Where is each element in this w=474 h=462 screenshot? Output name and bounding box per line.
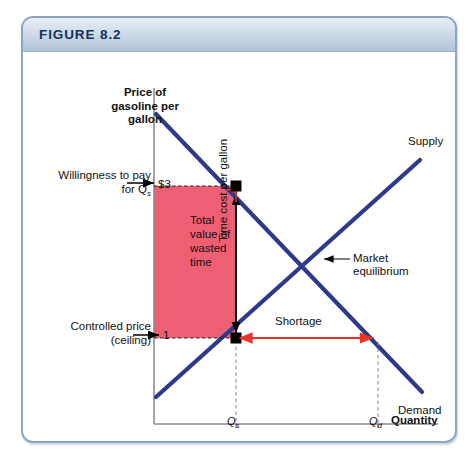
x-tick-label-qd: Qd — [369, 415, 382, 433]
plot-area: Price of gasoline per gallon Quantity Su… — [23, 52, 455, 443]
price-tick-1-label: 1 — [163, 329, 169, 343]
figure-frame: FIGURE 8.2 — [21, 16, 457, 443]
willingness-to-pay-text: Willingness to pay for Q — [58, 169, 151, 195]
controlled-price-point-marker — [231, 333, 242, 344]
economics-supply-demand-chart — [23, 52, 455, 443]
qd-text: Q — [369, 415, 378, 427]
total-value-wasted-time-label: Total value of wasted time — [190, 213, 238, 269]
willingness-to-pay-subscript: s — [147, 189, 151, 198]
market-equilibrium-label: Market equilibrium — [353, 252, 433, 278]
qs-subscript: s — [236, 421, 240, 430]
time-cost-per-gallon-label: Time cost per gallon — [217, 139, 231, 242]
supply-curve-label: Supply — [408, 135, 443, 149]
qd-subscript: d — [378, 421, 382, 430]
controlled-price-line1: Controlled price — [70, 320, 151, 332]
x-tick-label-qs: Qs — [227, 415, 240, 433]
controlled-price-line2: (ceiling) — [111, 334, 151, 346]
shortage-label: Shortage — [275, 315, 322, 329]
willingness-to-pay-label: Willingness to pay for Qs — [47, 169, 151, 200]
demand-curve-label: Demand — [398, 404, 441, 418]
y-axis-label: Price of gasoline per gallon — [107, 86, 183, 127]
willingness-point-marker — [231, 181, 242, 192]
qs-text: Q — [227, 415, 236, 427]
figure-number-label: FIGURE 8.2 — [39, 27, 122, 42]
price-tick-3-label: $3 — [158, 178, 171, 192]
controlled-price-label: Controlled price(ceiling) — [33, 320, 151, 347]
